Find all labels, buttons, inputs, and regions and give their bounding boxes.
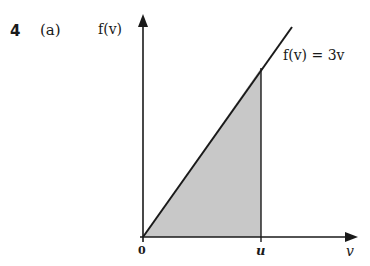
y-axis-arrow-icon	[138, 14, 148, 27]
graph	[0, 0, 370, 266]
x-axis-arrow-icon	[345, 232, 358, 242]
function-label: f(v) = 3v	[283, 47, 344, 63]
u-label: u	[256, 243, 265, 258]
origin-label: 0	[138, 244, 146, 257]
x-axis-label: v	[346, 243, 354, 259]
y-axis-label: f(v)	[98, 21, 122, 37]
